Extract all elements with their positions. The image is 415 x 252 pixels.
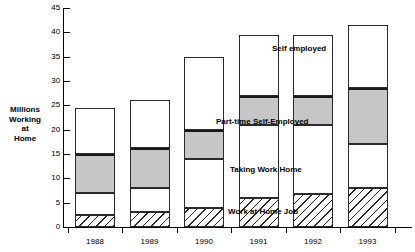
bar-segment-work-at-home-job[interactable]: [293, 194, 333, 227]
x-tick-mark: [177, 227, 178, 233]
bar-1993[interactable]: [348, 25, 388, 227]
y-axis-title: Millions Working at Home: [1, 105, 49, 143]
bar-segment-taking-work-home[interactable]: [75, 193, 115, 215]
y-tick-label-text: 5: [34, 199, 60, 207]
bar-segment-taking-work-home[interactable]: [130, 188, 170, 212]
y-tick-label-text: 30: [34, 77, 60, 85]
bar-segment-taking-work-home[interactable]: [184, 159, 224, 208]
y-tick-label: 0: [34, 223, 60, 231]
y-tick-label: 35: [34, 53, 60, 61]
y-tick-mark: [63, 81, 70, 82]
y-tick-label-text: 10: [34, 174, 60, 182]
y-tick-label-text: 35: [34, 53, 60, 61]
legend-label-work-at-home-job: Work at Home Job: [228, 207, 298, 216]
y-tick-mark: [63, 154, 70, 155]
legend-label-self-employed: Self employed: [272, 44, 326, 53]
bar-segment-work-at-home-job[interactable]: [348, 188, 388, 227]
y-tick-label-text: 40: [34, 28, 60, 36]
y-tick-label: 5: [34, 199, 60, 207]
y-tick-label: 20: [34, 126, 60, 134]
y-tick-mark: [63, 130, 70, 131]
stacked-bar-chart: Millions Working at Home 051015202530354…: [0, 0, 415, 252]
x-axis-label-1991: 1991: [232, 237, 286, 246]
bar-segment-work-at-home-job[interactable]: [75, 215, 115, 227]
x-tick-mark: [395, 227, 396, 233]
bar-segment-self-employed[interactable]: [75, 108, 115, 154]
bar-segment-part-time-self-employed[interactable]: [348, 88, 388, 144]
x-axis-label-1989: 1989: [123, 237, 177, 246]
x-tick-mark: [122, 227, 123, 233]
y-tick-mark: [63, 105, 70, 106]
bar-segment-self-employed[interactable]: [348, 25, 388, 88]
y-tick-mark: [63, 203, 70, 204]
y-tick-label-text: 45: [34, 4, 60, 12]
bar-1991[interactable]: [239, 35, 279, 227]
y-tick-label-text: 15: [34, 150, 60, 158]
y-tick-label: 45: [34, 4, 60, 12]
bar-segment-part-time-self-employed[interactable]: [130, 148, 170, 188]
y-tick-label-text: 25: [34, 101, 60, 109]
x-axis-label-1990: 1990: [177, 237, 231, 246]
y-tick-mark: [63, 57, 70, 58]
y-axis-line: [63, 8, 64, 227]
x-tick-mark: [286, 227, 287, 233]
x-axis-line: [63, 227, 412, 228]
bar-segment-part-time-self-employed[interactable]: [184, 130, 224, 159]
y-tick-label: 25: [34, 101, 60, 109]
bar-segment-taking-work-home[interactable]: [293, 125, 333, 194]
y-tick-label: 15: [34, 150, 60, 158]
bar-segment-taking-work-home[interactable]: [239, 125, 279, 198]
y-tick-mark: [63, 178, 70, 179]
x-tick-mark: [231, 227, 232, 233]
y-axis-title-line-4: Home: [1, 134, 49, 144]
y-tick-label: 10: [34, 174, 60, 182]
y-tick-label-text: 20: [34, 126, 60, 134]
bar-segment-work-at-home-job[interactable]: [184, 208, 224, 227]
x-axis-label-1988: 1988: [68, 237, 122, 246]
x-tick-mark: [340, 227, 341, 233]
y-tick-mark: [63, 32, 70, 33]
y-tick-label-text: 0: [34, 223, 60, 231]
legend-label-taking-work-home: Taking Work Home: [230, 165, 302, 174]
bar-1990[interactable]: [184, 57, 224, 227]
bar-1989[interactable]: [130, 100, 170, 227]
y-tick-label: 40: [34, 28, 60, 36]
bar-segment-self-employed[interactable]: [130, 100, 170, 147]
y-tick-label: 30: [34, 77, 60, 85]
y-tick-mark: [63, 8, 70, 9]
bar-1988[interactable]: [75, 108, 115, 227]
bar-1992[interactable]: [293, 35, 333, 227]
legend-label-part-time-self-employed: Part-time Self-Employed: [216, 117, 308, 126]
x-axis-label-1993: 1993: [341, 237, 395, 246]
y-axis-title-line-2: Working: [1, 115, 49, 125]
bar-segment-work-at-home-job[interactable]: [130, 212, 170, 227]
bar-segment-taking-work-home[interactable]: [348, 144, 388, 188]
x-axis-label-1992: 1992: [286, 237, 340, 246]
x-tick-mark: [68, 227, 69, 233]
bar-segment-part-time-self-employed[interactable]: [75, 154, 115, 193]
